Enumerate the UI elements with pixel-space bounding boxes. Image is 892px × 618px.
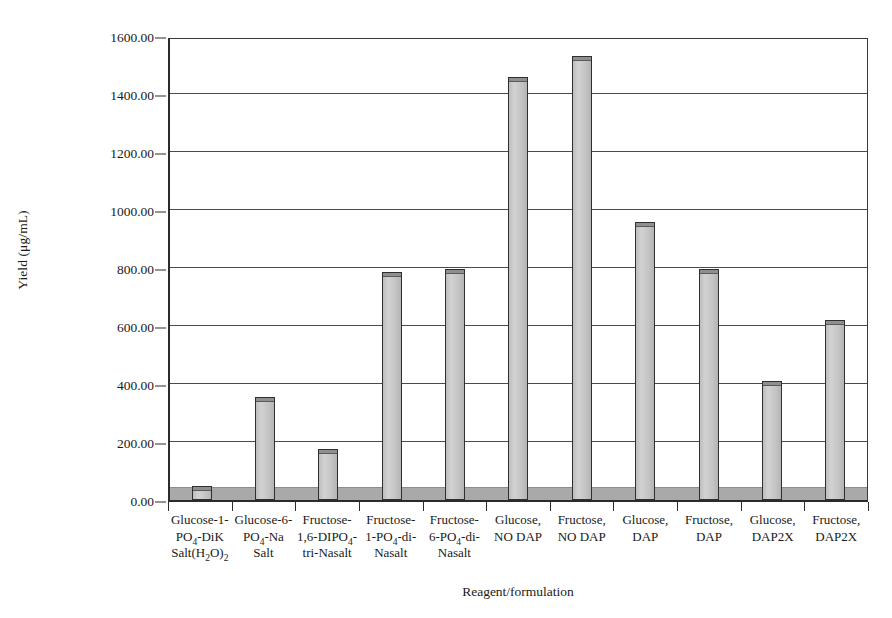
y-tick-label: 1600.00 — [110, 30, 154, 46]
bar[interactable] — [699, 269, 719, 500]
y-tick-mark — [155, 502, 166, 503]
bar[interactable] — [445, 269, 465, 500]
bar-slot — [297, 39, 360, 500]
y-tick-mark — [155, 270, 166, 271]
y-tick-mark — [155, 328, 166, 329]
y-tick-mark — [155, 96, 166, 97]
x-tick-mark — [359, 502, 360, 511]
bar[interactable] — [825, 320, 845, 500]
x-tick-label: Fructose,DAP2X — [804, 512, 868, 562]
bar-slot — [804, 39, 867, 500]
bar-slot — [550, 39, 613, 500]
x-tick-mark — [232, 502, 233, 511]
y-tick-mark — [155, 444, 166, 445]
bar[interactable] — [192, 486, 212, 501]
x-tick-mark — [423, 502, 424, 511]
x-tick-mark — [550, 502, 551, 511]
bar[interactable] — [508, 77, 528, 500]
y-tick-label: 200.00 — [117, 436, 154, 452]
y-tick-mark — [155, 38, 166, 39]
x-tick-label: Fructose,DAP — [677, 512, 741, 562]
x-tick-label: Fructose-1-PO4-di-Nasalt — [359, 512, 423, 562]
bar-series — [170, 39, 867, 500]
x-tick-mark — [613, 502, 614, 511]
y-tick-mark — [155, 386, 166, 387]
x-tick-mark — [486, 502, 487, 511]
y-tick-label: 600.00 — [117, 320, 154, 336]
x-tick-label: Glucose,DAP2X — [741, 512, 805, 562]
x-tick-label: Fructose-6-PO4-di-Nasalt — [423, 512, 487, 562]
x-axis-tick-labels: Glucose-1-PO4-DiKSalt(H2O)2Glucose-6-PO4… — [168, 512, 868, 562]
bar-slot — [360, 39, 423, 500]
plot-area — [168, 38, 868, 502]
bar[interactable] — [382, 272, 402, 500]
y-tick-label: 1200.00 — [110, 146, 154, 162]
bar-slot — [740, 39, 803, 500]
bar-slot — [233, 39, 296, 500]
x-tick-label: Glucose,DAP — [613, 512, 677, 562]
bar-slot — [677, 39, 740, 500]
y-tick-label: 800.00 — [117, 262, 154, 278]
x-tick-label: Glucose-1-PO4-DiKSalt(H2O)2 — [168, 512, 232, 562]
y-tick-mark — [155, 212, 166, 213]
bar[interactable] — [762, 381, 782, 500]
x-axis-title: Reagent/formulation — [168, 584, 868, 600]
x-tick-label: Fructose-1,6-DIPO4-tri-Nasalt — [295, 512, 359, 562]
x-tick-mark — [295, 502, 296, 511]
x-tick-label: Glucose-6-PO4-NaSalt — [232, 512, 296, 562]
bar-slot — [487, 39, 550, 500]
x-tick-mark — [168, 502, 169, 511]
bar[interactable] — [635, 222, 655, 500]
x-tick-mark — [741, 502, 742, 511]
x-tick-mark — [677, 502, 678, 511]
x-tick-label: Glucose,NO DAP — [486, 512, 550, 562]
y-tick-label: 400.00 — [117, 378, 154, 394]
bar-slot — [423, 39, 486, 500]
bar[interactable] — [572, 56, 592, 500]
y-tick-label: 1000.00 — [110, 204, 154, 220]
bar-chart: Yield (μg/mL) 1600.001400.001200.001000.… — [0, 0, 892, 618]
y-axis-ticks: 1600.001400.001200.001000.00800.00600.00… — [0, 0, 168, 540]
y-tick-label: 0.00 — [130, 494, 154, 510]
bar-slot — [170, 39, 233, 500]
x-axis-ticks — [168, 502, 868, 512]
bar[interactable] — [255, 397, 275, 500]
bar-slot — [614, 39, 677, 500]
y-tick-mark — [155, 154, 166, 155]
y-tick-label: 1400.00 — [110, 88, 154, 104]
x-tick-mark — [804, 502, 805, 511]
bar[interactable] — [318, 449, 338, 500]
x-tick-label: Fructose,NO DAP — [550, 512, 614, 562]
x-tick-mark — [868, 502, 869, 511]
